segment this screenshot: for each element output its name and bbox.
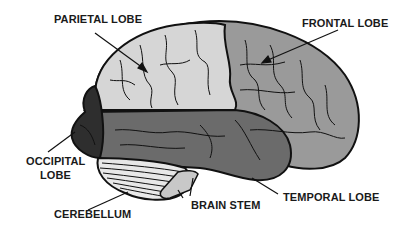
label-cerebellum: CEREBELLUM bbox=[54, 208, 131, 220]
label-temporal-lobe: TEMPORAL LOBE bbox=[283, 191, 379, 203]
parietal-lobe-region bbox=[85, 23, 236, 110]
occipital-lobe-region bbox=[72, 86, 104, 158]
label-occipital-lobe-line1: OCCIPITAL bbox=[26, 155, 85, 167]
label-occipital-lobe-line2: LOBE bbox=[40, 169, 71, 181]
label-parietal-lobe: PARIETAL LOBE bbox=[54, 13, 142, 25]
label-brain-stem: BRAIN STEM bbox=[191, 199, 260, 211]
label-frontal-lobe: FRONTAL LOBE bbox=[302, 17, 388, 29]
